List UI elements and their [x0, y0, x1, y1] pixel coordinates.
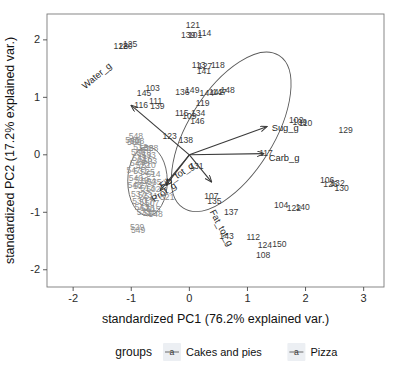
y-tick-label: 2: [34, 33, 40, 45]
y-axis-title: standardized PC2 (17.2% explained var.): [3, 37, 17, 264]
point-label: 140: [295, 202, 310, 212]
x-tick-label: 2: [302, 292, 308, 304]
legend-item[interactable]: aPizza: [287, 343, 338, 361]
point-label: 110: [299, 118, 313, 128]
point-label: 149: [185, 85, 200, 95]
legend-item-label: Pizza: [310, 346, 338, 358]
legend-items: aCakes and piesaPizza: [163, 343, 338, 361]
legend: groups aCakes and piesaPizza: [115, 343, 338, 361]
x-tick-label: 3: [361, 292, 367, 304]
y-tick-label: 1: [34, 91, 40, 103]
legend-title: groups: [115, 345, 152, 359]
loading-vector: [189, 154, 263, 155]
point-label: 123: [162, 131, 177, 141]
point-label: 129: [338, 125, 353, 135]
legend-item[interactable]: aCakes and pies: [163, 343, 262, 361]
x-axis-title: standardized PC1 (76.2% explained var.): [102, 312, 329, 326]
x-tick-label: -2: [68, 292, 78, 304]
point-label: 101: [188, 30, 203, 40]
point-label: 139: [150, 101, 165, 111]
x-tick-label: 0: [186, 292, 192, 304]
point-label: 146: [190, 116, 205, 126]
point-label: 130: [334, 183, 349, 193]
loading-vector-label: Sug_g: [272, 122, 299, 133]
pca-biplot-figure: -2-10123 -2-1012 12111413910112812012511…: [0, 0, 395, 377]
y-tick-label: -2: [30, 263, 40, 275]
point-label: 548: [148, 209, 163, 219]
y-axis-ticks: -2-1012: [30, 33, 47, 275]
point-label: 108: [256, 250, 271, 260]
x-axis-ticks: -2-10123: [68, 287, 366, 304]
point-label: 116: [134, 100, 148, 110]
legend-key-glyph: a: [294, 347, 299, 357]
legend-item-label: Cakes and pies: [186, 346, 262, 358]
loading-vector-label: Water_g: [79, 60, 113, 91]
y-tick-label: -1: [30, 206, 40, 218]
point-label: 150: [272, 239, 287, 249]
point-label: 118: [211, 60, 225, 70]
point-label: 124: [258, 240, 273, 250]
x-tick-label: -1: [126, 292, 136, 304]
x-tick-label: 1: [244, 292, 250, 304]
point-label: 141: [197, 66, 212, 76]
point-label: 125: [123, 39, 138, 49]
scatter-point-labels: 1211141391011281201251131271181411031451…: [114, 20, 353, 260]
legend-key-glyph: a: [170, 347, 175, 357]
plot-frame: [47, 14, 384, 287]
point-label: 135: [207, 196, 222, 206]
plot-canvas: -2-10123 -2-1012 12111413910112812012511…: [0, 0, 395, 377]
loading-vector: [189, 127, 266, 155]
point-label: 148: [221, 85, 236, 95]
y-tick-label: 0: [34, 148, 40, 160]
point-label: 138: [179, 135, 194, 145]
point-label: 137: [224, 207, 239, 217]
point-label: 549: [131, 225, 146, 235]
loading-vector-label: Carb_g: [269, 152, 300, 163]
point-label: 119: [196, 98, 210, 108]
